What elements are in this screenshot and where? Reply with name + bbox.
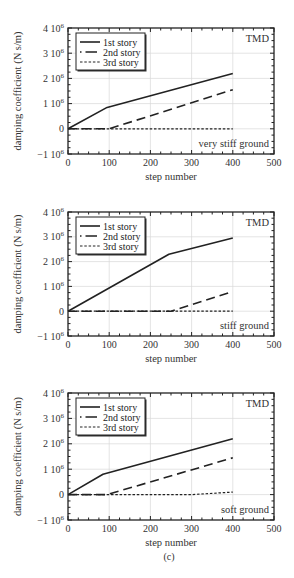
y-tick-labels: 4 1063 1062 1061 1060−1 106 — [37, 22, 64, 160]
x-tick-label: 100 — [102, 523, 117, 534]
line-chart: 4 1063 1062 1061 1060−1 1060100200300400… — [0, 365, 294, 578]
y-tick-label: 2 106 — [43, 72, 65, 84]
chart-panel-c: 4 1063 1062 1061 1060−1 1060100200300400… — [0, 365, 294, 578]
y-tick-label: 2 106 — [43, 255, 65, 267]
y-tick-label: 3 106 — [43, 47, 65, 59]
y-tick-label: 4 106 — [43, 387, 65, 399]
tmd-label: TMD — [246, 217, 270, 228]
y-tick-label: 3 106 — [43, 412, 65, 424]
tmd-label: TMD — [246, 33, 270, 44]
y-tick-label: −1 106 — [37, 148, 64, 160]
x-tick-label: 100 — [102, 339, 117, 350]
legend: 1st story2nd story3rd story — [76, 217, 147, 256]
legend: 1st story2nd story3rd story — [76, 33, 147, 72]
y-tick-label: 1 106 — [43, 97, 65, 109]
y-tick-label: 1 106 — [43, 463, 65, 475]
tmd-label: TMD — [246, 398, 270, 409]
line-chart: 4 1063 1062 1061 1060−1 1060100200300400… — [0, 184, 294, 365]
x-tick-label: 300 — [184, 157, 199, 168]
legend-label-3: 3rd story — [103, 57, 139, 68]
x-axis-label: step number — [145, 353, 197, 364]
y-tick-label: −1 106 — [37, 330, 64, 342]
x-tick-labels: 0100200300400500 — [66, 157, 282, 168]
x-tick-label: 300 — [184, 523, 199, 534]
x-tick-label: 500 — [267, 157, 282, 168]
line-chart: 4 1063 1062 1061 1060−1 1060100200300400… — [0, 0, 294, 184]
x-axis-label: step number — [145, 537, 197, 548]
y-tick-label: 0 — [59, 489, 64, 500]
x-tick-label: 100 — [102, 157, 117, 168]
y-tick-label: 1 106 — [43, 280, 65, 292]
x-tick-label: 200 — [143, 157, 158, 168]
x-tick-label: 500 — [267, 523, 282, 534]
y-tick-label: −1 106 — [37, 514, 64, 526]
x-tick-label: 300 — [184, 339, 199, 350]
ground-condition-label: soft ground — [221, 504, 270, 515]
y-tick-labels: 4 1063 1062 1061 1060−1 106 — [37, 206, 64, 342]
x-tick-label: 200 — [143, 339, 158, 350]
ground-condition-label: very stiff ground — [199, 138, 270, 149]
x-tick-label: 400 — [225, 157, 240, 168]
legend: 1st story2nd story3rd story — [76, 398, 147, 437]
chart-panel-b: 4 1063 1062 1061 1060−1 1060100200300400… — [0, 184, 294, 365]
x-tick-label: 0 — [66, 339, 71, 350]
x-tick-label: 0 — [66, 523, 71, 534]
x-tick-label: 500 — [267, 339, 282, 350]
y-tick-label: 4 106 — [43, 22, 65, 34]
y-tick-label: 2 106 — [43, 437, 65, 449]
y-tick-label: 4 106 — [43, 206, 65, 218]
x-tick-label: 400 — [225, 339, 240, 350]
y-tick-labels: 4 1063 1062 1061 1060−1 106 — [37, 387, 64, 526]
x-tick-label: 0 — [66, 157, 71, 168]
y-axis-label: damping coefficient (N s/m) — [12, 396, 24, 516]
y-axis-label: damping coefficient (N s/m) — [12, 214, 24, 334]
chart-panel-a: 4 1063 1062 1061 1060−1 1060100200300400… — [0, 0, 294, 184]
y-tick-label: 0 — [59, 306, 64, 317]
panel-caption: (c) — [163, 551, 174, 563]
y-tick-label: 3 106 — [43, 230, 65, 242]
y-tick-label: 0 — [59, 123, 64, 134]
x-tick-labels: 0100200300400500 — [66, 523, 282, 534]
x-axis-label: step number — [145, 171, 197, 182]
y-axis-label: damping coefficient (N s/m) — [12, 31, 24, 151]
x-tick-label: 200 — [143, 523, 158, 534]
x-tick-labels: 0100200300400500 — [66, 339, 282, 350]
ground-condition-label: stiff ground — [220, 320, 270, 331]
legend-label-3: 3rd story — [103, 422, 139, 433]
x-tick-label: 400 — [225, 523, 240, 534]
legend-label-3: 3rd story — [103, 241, 139, 252]
